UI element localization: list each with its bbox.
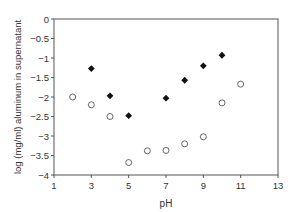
y-tick-label: −3 <box>38 131 49 142</box>
y-axis-label: log (mg/ml) aluminum in supernatant <box>12 20 23 175</box>
x-tick-label: 9 <box>201 180 206 191</box>
diamond-marker <box>181 77 188 84</box>
y-tick-label: −4 <box>38 170 49 181</box>
diamond-marker <box>163 95 170 102</box>
diamond-marker <box>107 92 114 99</box>
diamond-marker <box>219 52 226 59</box>
y-tick-label: −0.5 <box>30 33 49 44</box>
x-tick-label: 1 <box>51 180 56 191</box>
x-axis: 135791113 <box>51 175 283 191</box>
diamond-marker <box>125 112 132 119</box>
scatter-chart: 0−0.5−1−1.5−2−2.5−3−3.5−4 135791113 pH l… <box>0 0 298 212</box>
diamond-marker <box>88 65 95 72</box>
circle-marker <box>182 141 188 147</box>
x-tick-label: 7 <box>163 180 168 191</box>
y-tick-label: −2 <box>38 92 49 103</box>
y-tick-label: 0 <box>44 14 49 25</box>
circle-marker <box>200 134 206 140</box>
circle-marker <box>238 81 244 87</box>
x-tick-label: 3 <box>89 180 94 191</box>
circle-marker <box>88 102 94 108</box>
circle-marker <box>219 100 225 106</box>
y-tick-label: −1.5 <box>30 72 49 83</box>
data-points <box>70 52 244 166</box>
y-axis: 0−0.5−1−1.5−2−2.5−3−3.5−4 <box>30 14 54 181</box>
circle-marker <box>107 114 113 120</box>
x-tick-label: 11 <box>236 180 246 191</box>
circle-marker <box>70 94 76 100</box>
chart-canvas: 0−0.5−1−1.5−2−2.5−3−3.5−4 135791113 pH l… <box>0 0 298 212</box>
x-tick-label: 5 <box>126 180 131 191</box>
circle-marker <box>163 147 169 153</box>
diamond-marker <box>200 62 207 69</box>
y-tick-label: −1 <box>38 53 49 64</box>
x-axis-label: pH <box>160 198 173 209</box>
circle-marker <box>126 160 132 166</box>
y-tick-label: −3.5 <box>30 150 49 161</box>
circle-marker <box>144 148 150 154</box>
x-tick-label: 13 <box>273 180 284 191</box>
y-tick-label: −2.5 <box>30 111 49 122</box>
